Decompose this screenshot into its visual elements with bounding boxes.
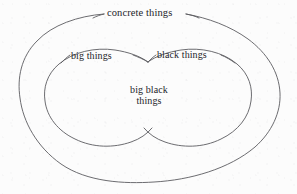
big-black-things-label: big black things <box>119 85 179 107</box>
concrete-things-label: concrete things <box>107 7 172 18</box>
black-things-leader-right <box>221 55 235 63</box>
black-things-label: black things <box>157 50 207 61</box>
big-things-leader-left <box>61 55 70 63</box>
black-things-leader-left <box>148 55 156 62</box>
big-things-leader-right <box>133 55 148 62</box>
big-things-label: big things <box>71 51 112 62</box>
euler-diagram: concrete things big things black things … <box>0 0 297 194</box>
big-black-things-label-line-2: things <box>119 96 179 107</box>
